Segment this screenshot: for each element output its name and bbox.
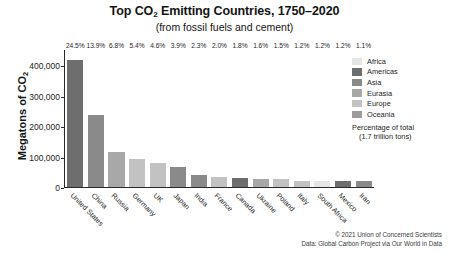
bar-value-label: 5.4%	[130, 42, 145, 49]
bar[interactable]	[67, 60, 83, 187]
y-axis-tick-mark	[61, 66, 64, 67]
bar-column[interactable]: 24.5%	[65, 50, 86, 187]
bar-value-label: 1.2%	[315, 42, 330, 49]
x-axis-labels: United StatesChinaRussiaGermanyUKJapanIn…	[65, 189, 374, 235]
bar-value-label: 6.8%	[109, 42, 124, 49]
y-axis-tick-mark	[61, 158, 64, 159]
chart-title: Top CO2 Emitting Countries, 1750–2020	[0, 4, 449, 18]
bar-column[interactable]: 1.5%	[271, 50, 292, 187]
legend-item[interactable]: Eurasia	[352, 88, 448, 99]
footer-copyright: © 2021 Union of Concerned Scientists	[301, 231, 442, 239]
y-axis-tick-label: 400,000	[29, 61, 60, 71]
y-axis-tick-label: 100,000	[29, 153, 60, 163]
legend-label: Eurasia	[367, 89, 392, 98]
bar-column[interactable]: 1.2%	[333, 50, 354, 187]
x-label-slot: Mexico	[333, 189, 354, 235]
bar[interactable]	[273, 179, 289, 187]
legend-swatch	[352, 111, 362, 119]
bar-value-label: 1.5%	[274, 42, 289, 49]
bar-column[interactable]: 1.2%	[292, 50, 313, 187]
y-axis-title: Megatons of CO2	[16, 56, 28, 176]
x-axis-tick-label: India	[192, 191, 209, 208]
y-axis-tick-mark	[61, 127, 64, 128]
x-label-slot: Germany	[127, 189, 148, 235]
bar[interactable]	[314, 181, 330, 187]
bar[interactable]	[170, 167, 186, 187]
x-label-slot: India	[189, 189, 210, 235]
chart-title-main: Top CO	[110, 4, 154, 18]
bar[interactable]	[88, 115, 104, 187]
bar[interactable]	[253, 179, 269, 187]
bar[interactable]	[150, 163, 166, 187]
legend-item[interactable]: Europe	[352, 98, 448, 109]
bar[interactable]	[129, 159, 145, 187]
x-label-slot: UK	[147, 189, 168, 235]
x-axis-tick-label: UK	[151, 191, 164, 204]
bar-value-label: 3.9%	[171, 42, 186, 49]
bar-column[interactable]: 1.8%	[230, 50, 251, 187]
x-label-slot: United States	[65, 189, 86, 235]
legend-item[interactable]: Asia	[352, 77, 448, 88]
legend-item[interactable]: Africa	[352, 56, 448, 67]
legend: AfricaAmericasAsiaEurasiaEuropeOceania P…	[352, 56, 448, 142]
y-axis-tick-label: 300,000	[29, 92, 60, 102]
bar-value-label: 1.6%	[253, 42, 268, 49]
y-axis-tick-mark	[61, 188, 64, 189]
chart-title-subscript: 2	[153, 10, 157, 19]
bar[interactable]	[108, 152, 124, 187]
bar-value-label: 1.8%	[233, 42, 248, 49]
bar-column[interactable]: 6.8%	[106, 50, 127, 187]
y-axis-tick-label: 200,000	[29, 122, 60, 132]
chart-footer: © 2021 Union of Concerned Scientists Dat…	[301, 231, 442, 248]
bar[interactable]	[335, 181, 351, 187]
bar-column[interactable]: 2.0%	[209, 50, 230, 187]
legend-label: Europe	[367, 99, 391, 108]
legend-label: Asia	[367, 78, 381, 87]
legend-note-line-1: Percentage of total	[352, 123, 448, 133]
bar[interactable]	[294, 181, 310, 187]
bar-value-label: 2.3%	[191, 42, 206, 49]
bar-column[interactable]: 2.3%	[189, 50, 210, 187]
bar-value-label: 24.5%	[66, 42, 85, 49]
y-axis-tick-label: 0	[55, 183, 60, 193]
bar[interactable]	[211, 177, 227, 187]
x-label-slot: Poland	[271, 189, 292, 235]
bar[interactable]	[232, 178, 248, 187]
legend-note: Percentage of total (1.7 trillion tons)	[352, 123, 448, 142]
y-axis-title-main: Megatons of CO	[16, 76, 28, 160]
x-axis-tick-label: Iran	[357, 191, 372, 206]
bar-series: 24.5%13.9%6.8%5.4%4.6%3.9%2.3%2.0%1.8%1.…	[65, 50, 374, 187]
bar[interactable]	[356, 181, 372, 187]
legend-swatch	[352, 58, 362, 66]
legend-rows: AfricaAmericasAsiaEurasiaEuropeOceania	[352, 56, 448, 120]
footer-source: Data: Global Carbon Project via Our Worl…	[301, 240, 442, 248]
bar-value-label: 1.2%	[336, 42, 351, 49]
legend-label: Oceania	[367, 110, 395, 119]
bar-value-label: 1.2%	[294, 42, 309, 49]
bar-column[interactable]: 1.6%	[250, 50, 271, 187]
chart-title-rest: Emitting Countries, 1750–2020	[158, 4, 340, 18]
x-label-slot: Ukraine	[250, 189, 271, 235]
bar-value-label: 4.6%	[150, 42, 165, 49]
bar-value-label: 13.9%	[87, 42, 106, 49]
y-axis-tick-mark	[61, 97, 64, 98]
legend-item[interactable]: Oceania	[352, 109, 448, 120]
legend-item[interactable]: Americas	[352, 67, 448, 78]
bar-column[interactable]: 5.4%	[127, 50, 148, 187]
bar-column[interactable]: 3.9%	[168, 50, 189, 187]
x-label-slot: Russia	[106, 189, 127, 235]
x-axis-tick-label: Italy	[295, 191, 311, 207]
bar-column[interactable]: 13.9%	[86, 50, 107, 187]
legend-note-line-2: (1.7 trillion tons)	[352, 132, 448, 142]
x-label-slot: Italy	[292, 189, 313, 235]
bar[interactable]	[191, 175, 207, 187]
x-label-slot: Japan	[168, 189, 189, 235]
x-label-slot: France	[209, 189, 230, 235]
x-axis-line	[64, 187, 374, 188]
bar-value-label: 1.1%	[356, 42, 371, 49]
bar-value-label: 2.0%	[212, 42, 227, 49]
bar-column[interactable]: 1.2%	[312, 50, 333, 187]
bar-column[interactable]: 4.6%	[147, 50, 168, 187]
x-label-slot: South Africa	[312, 189, 333, 235]
legend-swatch	[352, 100, 362, 108]
